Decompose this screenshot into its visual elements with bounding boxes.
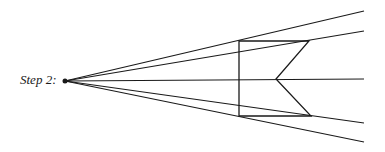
ray-line-1 [65, 31, 364, 81]
perspective-rays [65, 11, 364, 142]
vanishing-point [63, 79, 68, 84]
perspective-diagram [0, 0, 385, 152]
notched-shape [239, 41, 311, 116]
ray-line-4 [65, 81, 364, 142]
ray-line-0 [65, 11, 364, 81]
ray-line-3 [65, 81, 364, 123]
ray-line-2 [65, 79, 364, 81]
